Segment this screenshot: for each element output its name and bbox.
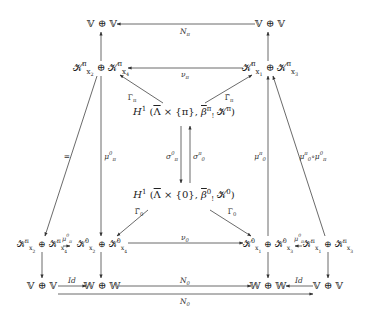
label-N0-bottom: N0 [180, 297, 190, 306]
label-mu-pi-0: μ0π [104, 152, 116, 161]
node-top-left: 𝕍 ⊕ 𝕍 [87, 18, 117, 30]
label-equals: = [64, 152, 70, 161]
label-sigma-pi-0: σ0π [166, 152, 178, 161]
node-bottom-v-right: 𝕍 ⊕ 𝕍 [313, 280, 343, 292]
node-h1-pi: H1 (Λ × {π}, βπ! 𝒦π) [133, 106, 235, 118]
node-bottom-w-left: 𝕎 ⊕ 𝕎 [83, 280, 120, 292]
node-k-pi-right: 𝒦πx1 ⊕ 𝒦πx3 [242, 62, 298, 74]
label-N-pi: Nπ [180, 27, 190, 36]
node-bottom-v-left: 𝕍 ⊕ 𝕍 [27, 280, 57, 292]
label-Gamma-0: Γ0 [228, 207, 237, 216]
node-h1-zero: H1 (Λ × {0}, β0! 𝒦0) [133, 189, 234, 201]
node-k-zero-left: 𝒦0x2 ⊕ 𝒦0x4 [77, 238, 127, 251]
label-mu-composition: μπ0∘μ0π [299, 152, 326, 161]
arrow-Gamma-pi [120, 75, 163, 103]
arrow-equals [45, 76, 97, 236]
label-Id-left: Id [68, 276, 76, 285]
label-mu-small-left: μ0π [62, 235, 72, 244]
node-top-right: 𝕍 ⊕ 𝕍 [255, 18, 285, 30]
label-mu-0-pi: μπ0 [254, 152, 266, 161]
label-nu-pi: νπ [181, 70, 189, 79]
node-k-pi-far-right: 𝒦πx1 ⊕ 𝒦πx3 [303, 238, 353, 251]
label-Gamma-pi-tilde: Γ̃π [225, 93, 234, 102]
node-k-pi-far-left: 𝒦πx2 ⊕ 𝒦πx4 [17, 238, 67, 251]
label-nu-0: ν0 [181, 233, 189, 242]
label-Id-right: Id [295, 276, 303, 285]
node-k-pi-left: 𝒦πx2 ⊕ 𝒦πx4 [73, 62, 129, 74]
label-Gamma-pi: Γπ [128, 93, 137, 102]
node-bottom-w-right: 𝕎 ⊕ 𝕎 [249, 280, 286, 292]
label-N0-mid: N0 [180, 276, 190, 285]
label-mu-small-right: μ0π [294, 235, 304, 244]
node-k-zero-right: 𝒦0x1 ⊕ 𝒦0x3 [243, 238, 293, 251]
label-sigma-0-pi: σπ0 [193, 152, 205, 161]
label-Gamma-0-tilde: Γ̃0 [135, 207, 144, 216]
arrow-Gamma-0-tilde [117, 210, 148, 236]
